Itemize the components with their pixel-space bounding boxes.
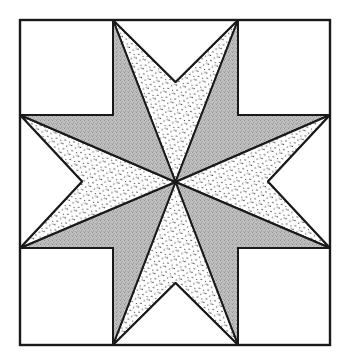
quilt-block-figure xyxy=(0,0,346,363)
corner-square-top-right xyxy=(238,20,330,115)
corner-square-bottom-right xyxy=(238,248,330,345)
corner-square-top-left xyxy=(20,20,113,115)
quilt-block-diagram xyxy=(0,0,346,363)
corner-square-bottom-left xyxy=(20,248,113,345)
